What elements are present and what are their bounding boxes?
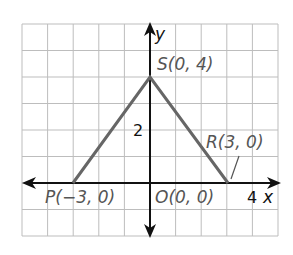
- y-axis-label: y: [154, 24, 166, 44]
- point-label-P: P(−3, 0): [45, 187, 115, 207]
- r-label-leader-line: [231, 156, 239, 179]
- point-label-O: O(0, 0): [155, 187, 214, 207]
- y-tick-label-2: 2: [133, 121, 143, 140]
- x-axis-label: x: [262, 187, 274, 207]
- coordinate-plane: y x 4 2 S(0, 4) R(3, 0) P(−3, 0) O(0, 0): [0, 0, 293, 255]
- x-tick-label-4: 4: [247, 188, 257, 207]
- point-label-R: R(3, 0): [206, 132, 264, 152]
- point-label-S: S(0, 4): [157, 54, 214, 74]
